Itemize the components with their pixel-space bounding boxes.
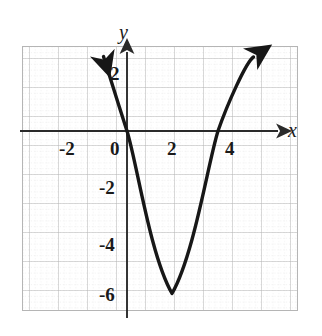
coordinate-plane-svg (0, 0, 322, 336)
y-tick-label-2: 2 (110, 64, 120, 83)
x-tick-label-2: 2 (167, 139, 177, 158)
x-axis-label: x (288, 120, 297, 140)
y-tick-label-neg6: -6 (99, 285, 115, 304)
x-tick-label-4: 4 (225, 139, 235, 158)
graph-figure: -2 0 2 4 2 -2 -4 -6 x y (0, 0, 322, 336)
x-tick-label-neg2: -2 (59, 139, 75, 158)
y-axis-label: y (119, 22, 128, 42)
y-tick-label-neg2: -2 (99, 178, 115, 197)
grid-layer (23, 47, 298, 311)
x-tick-label-0: 0 (110, 139, 120, 158)
y-tick-label-neg4: -4 (99, 235, 115, 254)
